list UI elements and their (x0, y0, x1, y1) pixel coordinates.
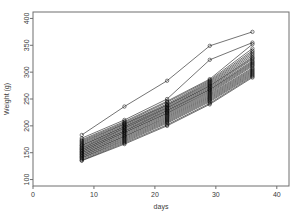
y-tick-label: 250 (23, 93, 30, 105)
x-tick-label: 20 (151, 191, 159, 198)
x-tick-label: 30 (212, 191, 220, 198)
data-point-marker (251, 30, 254, 33)
y-tick-label: 350 (23, 39, 30, 51)
data-series-group (80, 30, 254, 162)
y-tick-label: 200 (23, 120, 30, 132)
plot-frame (33, 12, 289, 186)
y-tick-label: 100 (23, 174, 30, 186)
series-line (82, 44, 253, 140)
x-axis-title: days (154, 203, 169, 211)
y-axis-title: Weight (g) (3, 83, 11, 115)
spaghetti-plot-canvas: 100150200250300350400 010203040 days Wei… (0, 0, 300, 220)
y-axis: 100150200250300350400 (23, 13, 33, 186)
series-subject-04 (80, 47, 254, 143)
series-line (82, 51, 253, 142)
y-tick-label: 150 (23, 147, 30, 159)
x-axis: 010203040 (31, 186, 281, 198)
series-line (82, 52, 253, 143)
x-tick-label: 40 (273, 191, 281, 198)
x-tick-label: 0 (31, 191, 35, 198)
y-tick-label: 300 (23, 66, 30, 78)
x-tick-label: 10 (90, 191, 98, 198)
chart-figure: 100150200250300350400 010203040 days Wei… (0, 0, 300, 220)
y-tick-label: 400 (23, 13, 30, 25)
